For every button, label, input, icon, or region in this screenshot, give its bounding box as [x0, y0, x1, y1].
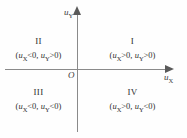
y-axis-label-subscript: Y — [69, 12, 74, 19]
quadrant-1-var2-rel: >0) — [144, 50, 156, 60]
quadrant-2-numeral: II — [0, 37, 77, 46]
quadrant-1: I (uX>0, uY>0) — [80, 37, 185, 63]
quadrant-4-condition: (uX>0, uY<0) — [80, 102, 185, 114]
quadrant-1-numeral: I — [80, 37, 185, 46]
quadrant-4-var1-rel: >0, — [121, 101, 132, 111]
quadrant-3-var1-rel: <0, — [27, 101, 38, 111]
x-axis-label: uX — [164, 73, 173, 84]
quadrant-3: III (uX<0, uY<0) — [0, 88, 77, 114]
quadrant-3-condition: (uX<0, uY<0) — [0, 102, 77, 114]
quadrant-1-var1-rel: >0, — [121, 50, 132, 60]
quadrant-4-numeral: IV — [80, 88, 185, 97]
quadrant-diagram: uY uX O II (uX<0, uY>0) I (uX>0, uY>0) I… — [0, 0, 187, 138]
quadrant-2: II (uX<0, uY>0) — [0, 37, 77, 63]
quadrant-1-condition: (uX>0, uY>0) — [80, 51, 185, 63]
quadrant-2-var2-rel: >0) — [50, 50, 62, 60]
quadrant-3-numeral: III — [0, 88, 77, 97]
y-axis-label: uY — [64, 8, 73, 19]
quadrant-2-condition: (uX<0, uY>0) — [0, 51, 77, 63]
origin-label: O — [68, 71, 75, 80]
y-axis-line — [77, 14, 78, 132]
x-axis-line — [5, 69, 167, 70]
y-axis-arrow-icon — [73, 6, 81, 15]
quadrant-2-var1-rel: <0, — [27, 50, 38, 60]
quadrant-4: IV (uX>0, uY<0) — [80, 88, 185, 114]
quadrant-4-var2-rel: <0) — [144, 101, 156, 111]
x-axis-label-subscript: X — [169, 77, 174, 84]
quadrant-3-var2-rel: <0) — [50, 101, 62, 111]
